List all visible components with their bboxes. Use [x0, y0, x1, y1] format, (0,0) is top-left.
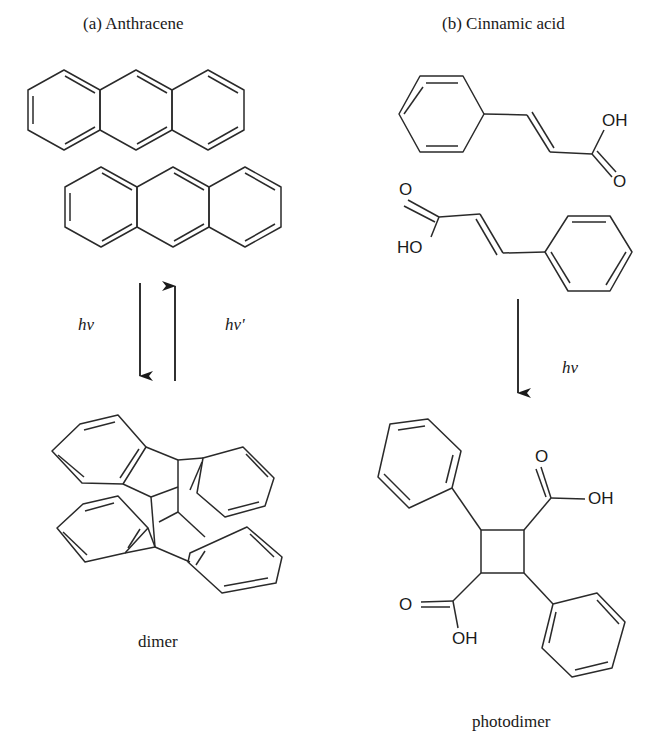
reverse-label-a: hv' [225, 315, 245, 335]
atom-ho: HO [397, 238, 423, 258]
atom-oh: OH [452, 629, 478, 649]
panel-a-title: (a) Anthracene [83, 14, 184, 34]
cinnamic-acid-molecule-1 [399, 76, 616, 177]
atom-oh: OH [588, 489, 614, 509]
cinnamic-acid-molecule-2 [404, 200, 632, 291]
forward-label-a: hv [78, 315, 94, 335]
anthracene-molecule-2 [65, 167, 281, 247]
atom-o: O [613, 172, 626, 192]
atom-o: O [535, 447, 548, 467]
anthracene-dimer [52, 415, 282, 593]
dimer-caption: dimer [138, 632, 178, 652]
atom-o: O [399, 180, 412, 200]
photodimer-caption: photodimer [472, 712, 550, 732]
atom-oh: OH [602, 111, 628, 131]
atom-o: O [399, 595, 412, 615]
anthracene-molecule-1 [28, 70, 244, 150]
cinnamic-photodimer [378, 419, 625, 677]
forward-label-b: hv [562, 358, 578, 378]
panel-b-title: (b) Cinnamic acid [442, 14, 565, 34]
